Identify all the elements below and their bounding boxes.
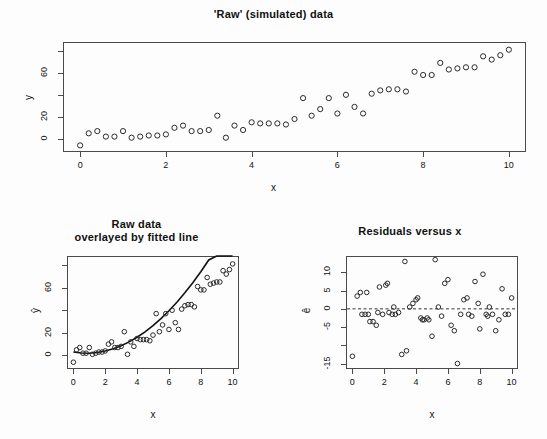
data-point <box>481 54 486 59</box>
data-point <box>180 123 185 128</box>
data-point <box>309 113 314 118</box>
y-tick-label: 20 <box>43 318 53 346</box>
data-point <box>86 131 91 136</box>
data-point <box>489 57 494 62</box>
data-point <box>374 323 379 328</box>
data-point <box>223 135 228 140</box>
panel-raw-data: 'Raw' (simulated) data 024681002060 x y <box>0 0 547 205</box>
x-tickmark <box>416 369 417 374</box>
data-point <box>446 277 451 282</box>
data-point <box>449 323 454 328</box>
x-tickmark <box>512 369 513 374</box>
data-point <box>202 288 207 293</box>
data-point <box>122 329 127 334</box>
data-point <box>433 257 438 262</box>
x-tick-label: 8 <box>403 160 443 170</box>
data-point <box>292 116 297 121</box>
data-point <box>506 312 511 317</box>
data-point <box>403 259 408 264</box>
data-point <box>335 111 340 116</box>
y-tickmark <box>341 272 346 273</box>
data-point <box>154 311 159 316</box>
y-tickmark <box>62 333 67 334</box>
data-point <box>125 352 130 357</box>
data-point <box>215 113 220 118</box>
data-point <box>218 280 223 285</box>
y-tick-label: -15 <box>322 349 332 377</box>
data-point <box>129 135 134 140</box>
x-tickmark <box>73 369 74 374</box>
data-point <box>300 96 305 101</box>
data-point <box>230 262 235 267</box>
data-point <box>157 329 162 334</box>
data-point <box>78 143 83 148</box>
data-point <box>151 333 156 338</box>
data-point <box>352 104 357 109</box>
y-tickmark <box>62 265 67 266</box>
data-point <box>132 344 137 349</box>
data-point <box>430 334 435 339</box>
data-point <box>403 89 408 94</box>
data-point <box>412 69 417 74</box>
data-point <box>103 134 108 139</box>
x-tickmark <box>252 152 253 157</box>
data-point <box>455 66 460 71</box>
data-point <box>476 301 481 306</box>
y-tickmark <box>58 51 63 52</box>
y-tickmark <box>58 73 63 74</box>
data-point <box>493 328 498 333</box>
x-tick-label: 10 <box>489 160 529 170</box>
data-point <box>283 122 288 127</box>
x-tick-label: 0 <box>60 160 100 170</box>
data-point <box>487 305 492 310</box>
y-tickmark <box>341 309 346 310</box>
x-tick-label: 6 <box>317 160 357 170</box>
data-point <box>376 310 381 315</box>
x-tickmark <box>201 369 202 374</box>
panel-raw-data-xlabel: x <box>0 182 547 193</box>
data-point <box>249 120 254 125</box>
y-tick-label: 20 <box>39 102 49 130</box>
data-point <box>380 312 385 317</box>
x-tickmark <box>480 369 481 374</box>
data-point <box>172 125 177 130</box>
panel-residuals-ylabel: ê <box>301 301 312 321</box>
data-point <box>232 123 237 128</box>
data-point <box>472 65 477 70</box>
panel-residuals: Residuals versus x 0246810-15-50510 x ê <box>273 205 547 439</box>
data-point <box>458 312 463 317</box>
x-tick-label: 4 <box>232 160 272 170</box>
panel-fitted-line: Raw data overlayed by fitted line 024681… <box>0 205 273 439</box>
y-tickmark <box>58 95 63 96</box>
y-tickmark <box>341 327 346 328</box>
x-tickmark <box>166 152 167 157</box>
x-tickmark <box>105 369 106 374</box>
data-point <box>386 87 391 92</box>
x-tickmark <box>423 152 424 157</box>
y-tick-label: 10 <box>322 257 332 285</box>
data-point <box>364 290 369 295</box>
panel-raw-data-points <box>0 0 547 205</box>
y-tickmark <box>58 117 63 118</box>
data-point <box>477 327 482 332</box>
data-point <box>377 285 382 290</box>
data-point <box>395 87 400 92</box>
data-point <box>87 345 92 350</box>
data-point <box>227 267 232 272</box>
data-point <box>452 328 457 333</box>
data-point <box>399 352 404 357</box>
data-point <box>176 327 181 332</box>
data-point <box>481 272 486 277</box>
x-tickmark <box>137 369 138 374</box>
x-tick-label: 10 <box>492 377 532 387</box>
data-point <box>369 91 374 96</box>
x-tickmark <box>352 369 353 374</box>
panel-fitted-line-ylabel: ŷ <box>30 301 41 321</box>
y-tickmark <box>62 288 67 289</box>
panel-fitted-line-xlabel: x <box>67 409 239 420</box>
data-point <box>438 60 443 65</box>
data-point <box>436 305 441 310</box>
y-tickmark <box>62 310 67 311</box>
x-tickmark <box>509 152 510 157</box>
data-point <box>206 127 211 132</box>
